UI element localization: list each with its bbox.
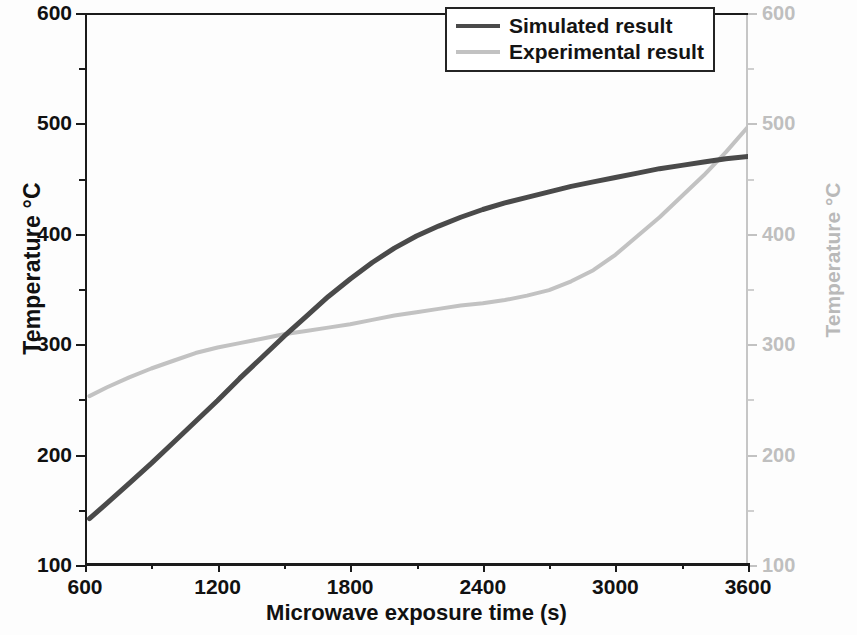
y-tick-label-right: 100	[762, 554, 795, 577]
legend-swatch-simulated	[456, 24, 500, 28]
x-tick-label: 2400	[459, 575, 506, 599]
y-tick-left	[76, 234, 85, 236]
y-tick-label-left: 300	[37, 332, 72, 356]
x-tick-label: 3000	[592, 575, 639, 599]
series-lines	[85, 13, 748, 565]
legend-label-experimental: Experimental result	[509, 40, 704, 64]
y-tick-label-right: 400	[762, 222, 795, 245]
legend-item-simulated: Simulated result	[456, 13, 704, 39]
plot-area: 100200300400500600 100200300400500600 60…	[85, 13, 748, 565]
x-tick-label: 600	[67, 575, 102, 599]
y-tick-right-minor	[748, 399, 754, 401]
y-tick-right	[748, 344, 757, 346]
line-experimental-result	[89, 127, 748, 396]
y-tick-left	[76, 13, 85, 15]
y-tick-label-left: 500	[37, 111, 72, 135]
y-tick-label-right: 500	[762, 112, 795, 135]
y-tick-left	[76, 455, 85, 457]
legend-item-experimental: Experimental result	[456, 39, 704, 65]
y-tick-label-left: 100	[37, 553, 72, 577]
y-tick-left	[76, 344, 85, 346]
y-tick-right	[748, 234, 757, 236]
y-tick-right-minor	[748, 179, 754, 181]
y-tick-right	[748, 13, 757, 15]
y-tick-right	[748, 123, 757, 125]
x-tick-label: 1200	[194, 575, 241, 599]
legend-swatch-experimental	[456, 50, 500, 54]
y-tick-right-minor	[748, 289, 754, 291]
y-tick-left	[76, 565, 85, 567]
y-tick-label-right: 600	[762, 2, 795, 25]
y-tick-right	[748, 455, 757, 457]
y-axis-right-title: Temperature °C	[821, 150, 845, 370]
legend: Simulated result Experimental result	[445, 7, 715, 72]
y-tick-left	[76, 123, 85, 125]
line-simulated-result	[89, 157, 748, 519]
x-tick-label: 3600	[725, 575, 772, 599]
x-tick-label: 1800	[327, 575, 374, 599]
chart-figure: Temperature °C Temperature °C Microwave …	[0, 0, 857, 635]
legend-label-simulated: Simulated result	[509, 14, 672, 38]
x-tick	[748, 563, 750, 572]
y-tick-label-right: 300	[762, 333, 795, 356]
y-tick-label-left: 200	[37, 443, 72, 467]
y-tick-label-left: 600	[37, 1, 72, 25]
x-axis-title: Microwave exposure time (s)	[85, 600, 748, 626]
y-tick-right-minor	[748, 510, 754, 512]
y-tick-right-minor	[748, 68, 754, 70]
y-tick-label-right: 200	[762, 443, 795, 466]
y-tick-label-left: 400	[37, 222, 72, 246]
